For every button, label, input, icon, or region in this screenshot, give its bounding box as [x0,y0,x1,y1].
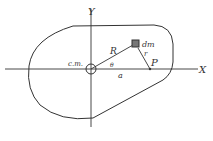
point-p-dot [149,68,151,70]
center-of-mass-label: c.m. [68,60,83,68]
y-axis-label: Y [88,6,96,17]
mass-element-label: dm [142,40,155,49]
x-axis-label: X [198,64,207,75]
rigid-body-diagram: Y X c.m. dm R r θ a P [0,0,213,141]
mass-element-square [132,40,139,47]
distance-r-lower-label: r [144,50,148,58]
distance-a-label: a [118,71,123,80]
point-p-label: P [150,57,158,68]
distance-r-upper-label: R [109,46,117,56]
angle-label: θ [110,61,114,68]
